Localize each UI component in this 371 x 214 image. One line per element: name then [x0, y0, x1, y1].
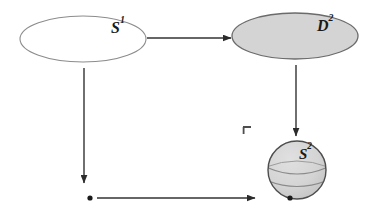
d2-label-superscript: 2 [328, 12, 334, 23]
topology-diagram: S1 D2 S2 [0, 0, 371, 214]
d2-ellipse-shape [232, 13, 358, 59]
d2-label-base: D [316, 17, 329, 34]
s1-label-superscript: 1 [120, 14, 125, 25]
basepoint-left-dot [87, 195, 92, 200]
node-s2: S2 [266, 141, 328, 199]
s1-ellipse-shape [20, 16, 146, 62]
basepoint-sphere-dot [287, 195, 292, 200]
s2-label-base: S [299, 146, 307, 162]
s2-label-superscript: 2 [306, 141, 312, 151]
node-d2: D2 [232, 12, 358, 60]
node-s1: S1 [20, 14, 146, 63]
s1-label-base: S [111, 19, 120, 36]
diagram-canvas: S1 D2 S2 [0, 0, 371, 214]
corner-bracket-icon [243, 127, 251, 134]
